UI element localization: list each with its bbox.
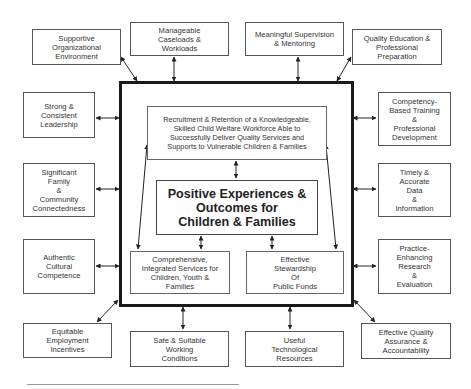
supportive-environment-box: Supportive Organizational Environment	[32, 29, 121, 65]
competency-training-box: Competency- Based Training & Professiona…	[378, 92, 451, 146]
arrow-quality-assurance-frame	[354, 300, 375, 322]
quality-assurance-box: Effective Quality Assurance & Accountabi…	[361, 323, 451, 359]
arrow-education-frame	[337, 57, 351, 81]
practice-research-box: Practice- Enhancing Research & Evaluatio…	[378, 239, 451, 294]
arrow-supportive-frame	[121, 57, 137, 81]
supervision-mentoring-box: Meaningful Supervision & Mentoring	[245, 22, 344, 56]
cultural-competence-box: Authentic Cultural Competence	[23, 239, 95, 294]
workforce-goal-box: Recruitment & Retention of a Knowledgeab…	[147, 106, 327, 160]
footnote-rule	[27, 384, 239, 385]
employment-incentives-box: Equitable Employment Incentives	[23, 323, 112, 358]
leadership-box: Strong & Consistent Leadership	[23, 92, 95, 138]
integrated-services-box: Comprehensive, Integrated Services for C…	[130, 251, 230, 294]
quality-education-box: Quality Education & Professional Prepara…	[352, 29, 442, 65]
stewardship-box: Effective Stewardship Of Public Funds	[246, 251, 344, 294]
working-conditions-box: Safe & Suitable Working Conditions	[130, 331, 229, 367]
manageable-caseloads-box: Manageable Caseloads & Workloads	[130, 22, 229, 56]
outcome-box: Positive Experiences & Outcomes for Chil…	[156, 180, 318, 235]
arrow-incentives-frame	[97, 300, 118, 322]
technological-resources-box: Useful Technological Resources	[245, 331, 344, 367]
timely-data-box: Timely & Accurate Data & Information	[378, 163, 451, 217]
family-community-box: Significant Family & Community Connected…	[23, 163, 95, 217]
